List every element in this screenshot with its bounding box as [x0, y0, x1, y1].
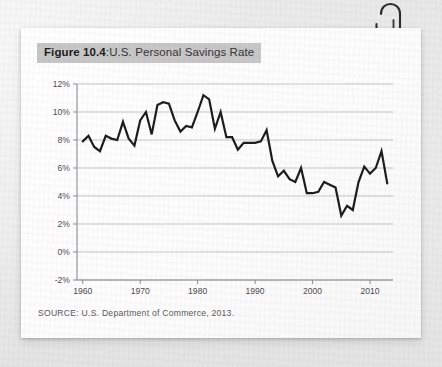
- figure-title: Figure 10.4:U.S. Personal Savings Rate: [37, 43, 261, 63]
- chart-data-line: [83, 95, 388, 215]
- svg-text:2%: 2%: [58, 219, 71, 229]
- svg-text:0%: 0%: [58, 247, 71, 257]
- svg-text:12%: 12%: [53, 79, 71, 89]
- chart-gridlines: [77, 84, 393, 280]
- svg-text:1960: 1960: [73, 286, 92, 296]
- svg-text:2000: 2000: [303, 286, 322, 296]
- svg-text:6%: 6%: [58, 163, 71, 173]
- savings-rate-line-chart: -2%0%2%4%6%8%10%12% 19601970198019902000…: [37, 74, 405, 310]
- svg-text:1990: 1990: [246, 286, 265, 296]
- svg-text:2010: 2010: [360, 286, 379, 296]
- figure-card: Figure 10.4:U.S. Personal Savings Rate -…: [21, 28, 421, 338]
- svg-text:1980: 1980: [188, 286, 207, 296]
- chart-axes: [77, 84, 393, 280]
- svg-text:1970: 1970: [131, 286, 150, 296]
- figure-number: Figure 10.4: [44, 46, 106, 58]
- svg-text:4%: 4%: [58, 191, 71, 201]
- chart-plot-area: -2%0%2%4%6%8%10%12% 19601970198019902000…: [37, 74, 405, 310]
- chart-x-tick-labels: 196019701980199020002010: [73, 286, 380, 296]
- figure-caption: U.S. Personal Savings Rate: [109, 46, 254, 58]
- page-background: Figure 10.4:U.S. Personal Savings Rate -…: [0, 0, 442, 367]
- svg-text:10%: 10%: [53, 107, 71, 117]
- figure-source-note: SOURCE: U.S. Department of Commerce, 201…: [38, 308, 234, 318]
- chart-y-tick-labels: -2%0%2%4%6%8%10%12%: [53, 79, 71, 285]
- chart-x-ticks: [83, 280, 370, 284]
- svg-text:8%: 8%: [58, 135, 71, 145]
- chart-y-ticks: [73, 84, 77, 280]
- svg-text:-2%: -2%: [55, 275, 71, 285]
